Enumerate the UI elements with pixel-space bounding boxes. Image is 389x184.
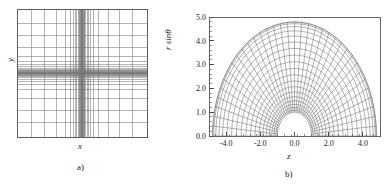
- panel-a-caption: a): [77, 163, 84, 172]
- panel-b-y-tick-label: 5.0: [196, 13, 206, 22]
- figure-container: x y a) -4.0-2.00.02.04.00.01.02.03.04.05…: [0, 0, 389, 184]
- panel-b-y-tick-label: 3.0: [196, 60, 206, 69]
- panel-a-cartesian-mesh: x y a): [0, 0, 195, 184]
- panel-b-x-axis-label: z: [287, 152, 291, 161]
- panel-b-y-tick-label: 0.0: [196, 132, 206, 141]
- panel-b-plot: -4.0-2.00.02.04.00.01.02.03.04.05.0: [195, 0, 389, 184]
- panel-a-gridlines: [17, 9, 147, 137]
- panel-b-x-tick-label: 0.0: [290, 139, 300, 148]
- panel-b-y-tick-label: 1.0: [196, 108, 206, 117]
- panel-b-x-tick-label: -2.0: [254, 139, 267, 148]
- panel-b-gridlines: [212, 22, 376, 136]
- panel-b-caption: b): [285, 170, 293, 179]
- panel-a-y-axis-label: y: [6, 58, 15, 62]
- panel-b-y-tick-label: 4.0: [196, 37, 206, 46]
- panel-b-y-tick-label: 2.0: [196, 84, 206, 93]
- panel-b-polar-mesh: -4.0-2.00.02.04.00.01.02.03.04.05.0 z r …: [195, 0, 389, 184]
- panel-a-x-axis-label: x: [78, 142, 82, 151]
- panel-a-plot: [0, 0, 195, 184]
- panel-b-y-axis-label: r sinθ: [164, 29, 173, 50]
- panel-b-x-tick-label: 2.0: [324, 139, 334, 148]
- panel-b-x-tick-label: 4.0: [358, 139, 368, 148]
- panel-b-x-tick-label: -4.0: [220, 139, 233, 148]
